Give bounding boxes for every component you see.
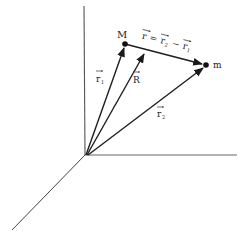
- svg-text:2: 2: [164, 41, 169, 48]
- svg-text:1: 1: [101, 79, 104, 85]
- svg-text:R: R: [133, 75, 140, 85]
- vector-diagram: M m r 1 R r 2 r = r 2 − r 1: [0, 0, 246, 240]
- vector-r2: [88, 68, 203, 155]
- label-M: M: [117, 29, 127, 40]
- vector-r1: [86, 48, 124, 155]
- depth-axis: [12, 155, 85, 230]
- svg-text:=: =: [149, 33, 159, 45]
- vertical-axis: [84, 6, 85, 155]
- label-m: m: [213, 60, 222, 70]
- point-m: [203, 62, 209, 68]
- svg-text:r: r: [141, 31, 148, 42]
- vector-R: [87, 54, 144, 155]
- label-r2: r 2: [157, 107, 165, 120]
- point-M: [122, 41, 128, 47]
- svg-text:2: 2: [162, 114, 165, 120]
- svg-text:−: −: [171, 38, 181, 50]
- svg-text:1: 1: [186, 47, 191, 54]
- label-R: R: [133, 72, 140, 85]
- label-r1: r 1: [96, 71, 104, 85]
